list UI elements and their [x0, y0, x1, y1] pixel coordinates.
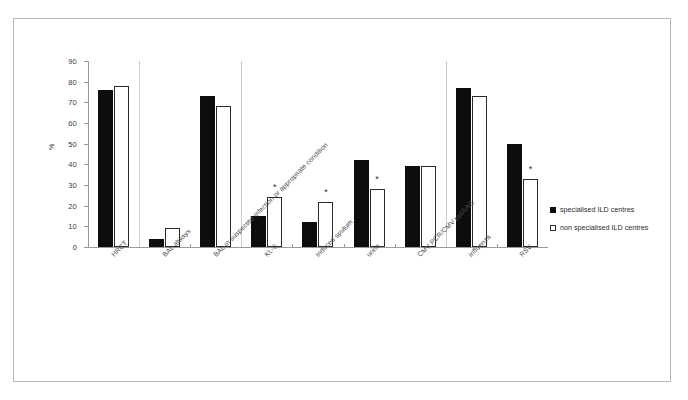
y-axis-tick-label: 40	[68, 160, 77, 169]
bar-group	[88, 61, 139, 247]
significance-asterisk: *	[529, 165, 533, 174]
y-axis-tick-label: 80	[68, 77, 77, 86]
legend-entry: specialised ILD centres	[550, 205, 648, 214]
y-axis-tick-label: 0	[73, 243, 77, 252]
chart-frame: % 0102030405060708090 **** HRCTBAL alway…	[13, 18, 671, 382]
significance-asterisk: *	[375, 175, 379, 184]
bar-specialised	[405, 166, 420, 247]
y-axis-tick-label: 50	[68, 139, 77, 148]
y-axis-tick-label: 10	[68, 222, 77, 231]
bar-group	[497, 61, 548, 247]
bar-specialised	[302, 222, 317, 247]
bar-specialised	[354, 160, 369, 247]
bar-specialised	[98, 90, 113, 247]
chart-legend: specialised ILD centresnon specialised I…	[550, 205, 648, 241]
bar-specialised	[149, 239, 164, 247]
y-axis-tick-label: 30	[68, 181, 77, 190]
y-axis-title: %	[48, 144, 55, 150]
bar-group	[190, 61, 241, 247]
bar-specialised	[200, 96, 215, 247]
y-axis-tick: 0	[84, 247, 88, 248]
legend-swatch-icon	[550, 207, 556, 213]
bar-group	[139, 61, 190, 247]
legend-swatch-icon	[550, 225, 556, 231]
bar-non-specialised	[370, 189, 385, 247]
bar-non-specialised	[216, 106, 231, 247]
bar-non-specialised	[114, 86, 129, 247]
bar-specialised	[456, 88, 471, 247]
legend-label: non specialised ILD centres	[560, 223, 648, 232]
bar-non-specialised	[472, 96, 487, 247]
y-axis-tick-label: 20	[68, 201, 77, 210]
significance-asterisk: *	[324, 188, 328, 197]
bar-non-specialised	[523, 179, 538, 247]
bar-specialised	[507, 144, 522, 247]
legend-label: specialised ILD centres	[560, 205, 634, 214]
y-axis-tick-label: 90	[68, 57, 77, 66]
bar-group	[395, 61, 446, 247]
legend-entry: non specialised ILD centres	[550, 223, 648, 232]
y-axis-tick-label: 60	[68, 119, 77, 128]
bar-group	[344, 61, 395, 247]
y-axis-tick-label: 70	[68, 98, 77, 107]
